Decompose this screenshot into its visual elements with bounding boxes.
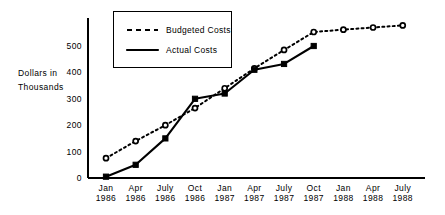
data-point-budgeted-1 bbox=[133, 139, 138, 144]
x-tick-label-0-line-1: Jan bbox=[99, 183, 114, 193]
x-axis-tick-labels: Jan1986Apr1986July1986Oct1986Jan1987Apr1… bbox=[96, 183, 413, 203]
y-axis-title: Dollars in Thousands bbox=[18, 68, 64, 92]
data-point-budgeted-6 bbox=[282, 47, 287, 52]
data-point-actual-3 bbox=[192, 96, 197, 101]
data-point-actual-1 bbox=[133, 162, 138, 167]
x-tick-label-2-line-2: 1986 bbox=[155, 193, 176, 203]
x-tick-label-9-line-2: 1988 bbox=[363, 193, 384, 203]
y-axis-title-line-1: Dollars in bbox=[18, 68, 57, 78]
y-tick-label-500: 500 bbox=[67, 41, 82, 51]
data-point-actual-7 bbox=[311, 43, 316, 48]
x-tick-label-8-line-1: Jan bbox=[336, 183, 351, 193]
y-tick-label-0: 0 bbox=[77, 173, 82, 183]
data-point-budgeted-0 bbox=[104, 156, 109, 161]
x-tick-label-3-line-1: Oct bbox=[188, 183, 203, 193]
x-tick-label-4-line-2: 1987 bbox=[214, 193, 235, 203]
chart-container: Dollars in Thousands 0100200300400500 Ja… bbox=[0, 0, 445, 215]
y-tick-label-200: 200 bbox=[67, 120, 82, 130]
y-tick-label-400: 400 bbox=[67, 67, 82, 77]
data-point-actual-5 bbox=[252, 67, 257, 72]
x-tick-label-3-line-2: 1986 bbox=[185, 193, 206, 203]
x-tick-label-5-line-2: 1987 bbox=[244, 193, 265, 203]
x-tick-label-1-line-1: Apr bbox=[128, 183, 142, 193]
x-tick-label-7-line-2: 1987 bbox=[303, 193, 324, 203]
data-point-budgeted-9 bbox=[371, 25, 376, 30]
data-point-budgeted-10 bbox=[400, 23, 405, 28]
data-point-budgeted-7 bbox=[311, 30, 316, 35]
x-tick-label-7-line-1: Oct bbox=[307, 183, 322, 193]
x-tick-label-5-line-1: Apr bbox=[247, 183, 261, 193]
legend: Budgeted Costs Actual Costs bbox=[114, 12, 232, 68]
legend-box bbox=[114, 12, 232, 68]
x-tick-label-6-line-1: July bbox=[276, 183, 293, 193]
data-point-actual-4 bbox=[222, 91, 227, 96]
data-point-actual-0 bbox=[103, 174, 108, 179]
x-tick-label-0-line-2: 1986 bbox=[96, 193, 117, 203]
x-tick-label-10-line-1: July bbox=[394, 183, 411, 193]
x-tick-label-2-line-1: July bbox=[157, 183, 174, 193]
legend-label-budgeted-costs: Budgeted Costs bbox=[166, 25, 231, 35]
y-tick-label-100: 100 bbox=[67, 147, 82, 157]
x-tick-label-9-line-1: Apr bbox=[366, 183, 380, 193]
data-point-actual-6 bbox=[281, 61, 286, 66]
data-point-actual-2 bbox=[163, 136, 168, 141]
x-tick-label-10-line-2: 1988 bbox=[392, 193, 413, 203]
legend-label-actual-costs: Actual Costs bbox=[166, 45, 217, 55]
x-tick-label-8-line-2: 1988 bbox=[333, 193, 354, 203]
x-tick-label-4-line-1: Jan bbox=[217, 183, 232, 193]
y-tick-label-300: 300 bbox=[67, 94, 82, 104]
data-point-budgeted-4 bbox=[222, 86, 227, 91]
data-point-budgeted-3 bbox=[193, 106, 198, 111]
line-chart: Dollars in Thousands 0100200300400500 Ja… bbox=[0, 0, 445, 215]
x-tick-label-6-line-2: 1987 bbox=[274, 193, 295, 203]
y-axis-title-line-2: Thousands bbox=[18, 82, 64, 92]
y-axis-tick-labels: 0100200300400500 bbox=[67, 41, 82, 183]
data-point-budgeted-2 bbox=[163, 123, 168, 128]
data-point-budgeted-8 bbox=[341, 27, 346, 32]
x-tick-label-1-line-2: 1986 bbox=[125, 193, 146, 203]
